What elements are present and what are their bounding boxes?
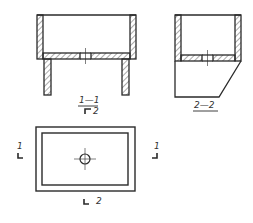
cut-marker-left-icon xyxy=(18,153,23,158)
cut-marker-bottom-icon xyxy=(84,199,89,204)
cut-marker-bottom-label: 2 xyxy=(96,197,102,206)
technical-drawing xyxy=(0,0,253,223)
section-1-1-label: 1—1 xyxy=(79,96,99,105)
plan-view xyxy=(36,127,135,191)
cut-marker-right-label: 1 xyxy=(154,142,160,151)
section-2-2-label: 2—2 xyxy=(194,101,214,110)
section-1-1-sublabel: 2 xyxy=(93,107,99,116)
cut-marker-left-label: 1 xyxy=(17,142,23,151)
cut-marker-right-icon xyxy=(152,153,157,158)
section-2-2-view xyxy=(175,15,241,97)
section-1-1-view xyxy=(37,15,136,95)
view-arrow-icon xyxy=(85,109,91,114)
